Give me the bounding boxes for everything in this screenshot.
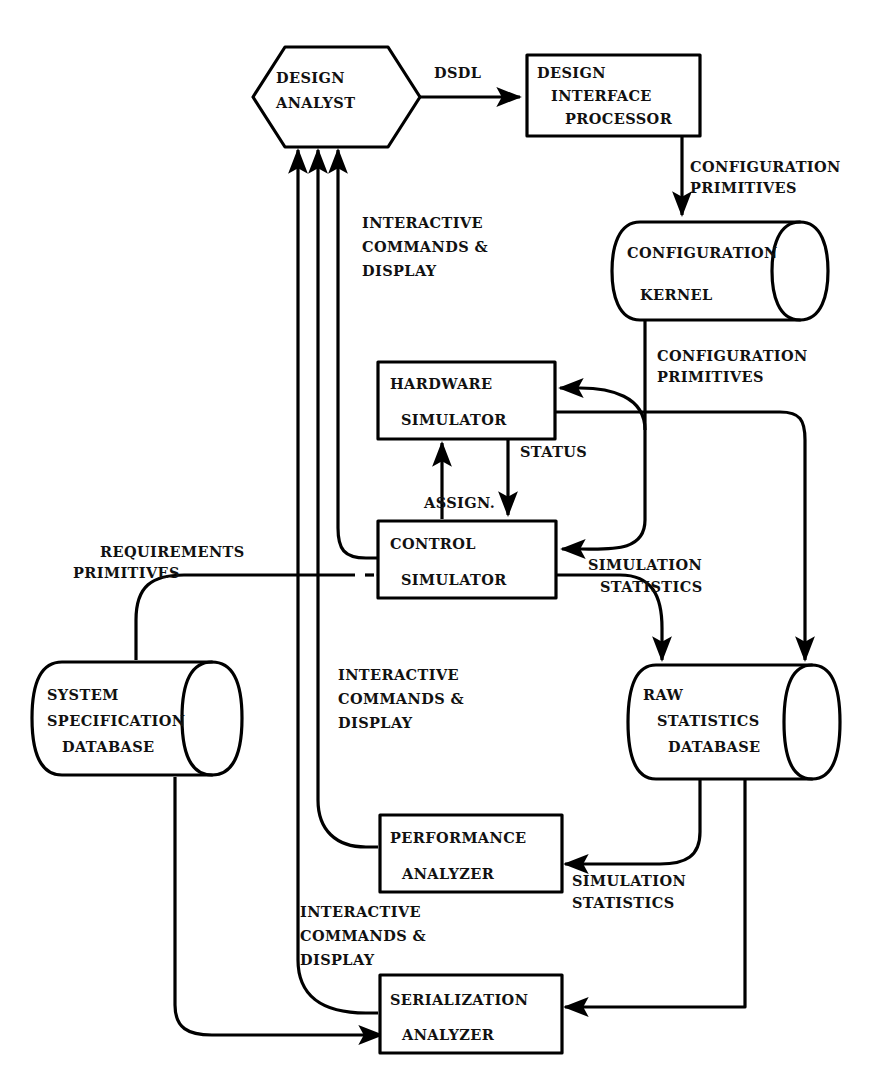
edge-label-interactive-top: INTERACTIVE COMMANDS & DISPLAY: [362, 214, 488, 279]
edge-label-simulation-statistics-bottom: SIMULATION STATISTICS: [572, 872, 686, 911]
serialization-analyzer-label-line-2: ANALYZER: [401, 1026, 495, 1043]
flow-sysspec-to-control-simulator: [136, 575, 355, 660]
config-primitives-mid-line-2: PRIMITIVES: [657, 368, 764, 385]
node-raw-statistics-database[interactable]: RAW STATISTICS DATABASE: [628, 665, 840, 779]
interactive-mid-line-3: DISPLAY: [338, 714, 413, 731]
simulation-statistics-bottom-line-2: STATISTICS: [572, 894, 675, 911]
performance-analyzer-label-line-2: ANALYZER: [401, 865, 495, 882]
design-analyst-label-line-2: ANALYST: [275, 94, 355, 111]
flow-config-kernel-to-control-simulator: [562, 520, 645, 549]
interactive-bottom-line-2: COMMANDS &: [300, 927, 426, 944]
flow-config-kernel-to-hardware-simulator: [560, 388, 645, 430]
node-design-interface-processor[interactable]: DESIGN INTERFACE PROCESSOR: [527, 55, 700, 136]
interactive-bottom-line-3: DISPLAY: [300, 951, 375, 968]
configuration-kernel-cylinder: [612, 222, 828, 320]
node-hardware-simulator[interactable]: HARDWARE SIMULATOR: [378, 362, 555, 439]
edge-label-interactive-bottom: INTERACTIVE COMMANDS & DISPLAY: [300, 903, 426, 968]
edge-label-assign: ASSIGN.: [423, 494, 495, 511]
flow-hardware-to-raw-statistics: [555, 412, 805, 660]
design-interface-processor-label-line-1: DESIGN: [537, 64, 606, 81]
interactive-bottom-line-1: INTERACTIVE: [300, 903, 421, 920]
raw-statistics-database-label-line-1: RAW: [643, 686, 683, 703]
dataflow-diagram-canvas: DESIGN ANALYST DESIGN INTERFACE PROCESSO…: [0, 0, 884, 1072]
edge-label-interactive-mid: INTERACTIVE COMMANDS & DISPLAY: [338, 666, 464, 731]
diagram-svg-surface: DESIGN ANALYST DESIGN INTERFACE PROCESSO…: [0, 0, 884, 1072]
requirements-primitives-line-1: REQUIREMENTS: [100, 543, 245, 560]
raw-statistics-database-label-line-2: STATISTICS: [657, 712, 760, 729]
simulation-statistics-mid-line-1: SIMULATION: [588, 556, 702, 573]
dsdl-label: DSDL: [434, 64, 481, 81]
control-simulator-label-line-1: CONTROL: [390, 535, 476, 552]
hardware-simulator-label-line-1: HARDWARE: [390, 375, 492, 392]
flow-control-simulator-to-design-analyst: [338, 150, 378, 558]
requirements-primitives-line-2: PRIMITIVES: [73, 564, 180, 581]
simulation-statistics-bottom-line-1: SIMULATION: [572, 872, 686, 889]
system-specification-database-label-line-3: DATABASE: [62, 738, 155, 755]
interactive-top-line-2: COMMANDS &: [362, 238, 488, 255]
config-primitives-mid-line-1: CONFIGURATION: [657, 347, 808, 364]
config-primitives-top-line-1: CONFIGURATION: [690, 158, 841, 175]
edge-label-dsdl: DSDL: [434, 64, 481, 81]
node-configuration-kernel[interactable]: CONFIGURATION KERNEL: [612, 222, 828, 320]
node-control-simulator[interactable]: CONTROL SIMULATOR: [378, 521, 556, 598]
interactive-top-line-1: INTERACTIVE: [362, 214, 483, 231]
interactive-mid-line-1: INTERACTIVE: [338, 666, 459, 683]
node-performance-analyzer[interactable]: PERFORMANCE ANALYZER: [380, 815, 562, 892]
node-system-specification-database[interactable]: SYSTEM SPECIFICATION DATABASE: [32, 662, 242, 775]
flow-raw-statistics-to-performance-analyzer: [565, 779, 700, 864]
design-interface-processor-label-line-3: PROCESSOR: [565, 110, 673, 127]
performance-analyzer-label-line-1: PERFORMANCE: [390, 829, 527, 846]
interactive-top-line-3: DISPLAY: [362, 262, 437, 279]
system-specification-database-label-line-2: SPECIFICATION: [47, 712, 185, 729]
flow-raw-statistics-to-serialization-analyzer: [565, 779, 745, 1007]
hardware-simulator-label-line-2: SIMULATOR: [401, 411, 507, 428]
configuration-kernel-label-line-2: KERNEL: [640, 286, 713, 303]
edge-label-configuration-primitives-top: CONFIGURATION PRIMITIVES: [690, 158, 841, 196]
edge-label-status: STATUS: [520, 443, 587, 460]
design-interface-processor-label-line-2: INTERFACE: [551, 87, 652, 104]
node-serialization-analyzer[interactable]: SERIALIZATION ANALYZER: [380, 975, 562, 1053]
system-specification-database-label-line-1: SYSTEM: [47, 686, 119, 703]
assign-label: ASSIGN.: [423, 494, 495, 511]
config-primitives-top-line-2: PRIMITIVES: [690, 179, 797, 196]
control-simulator-label-line-2: SIMULATOR: [401, 571, 507, 588]
configuration-kernel-label-line-1: CONFIGURATION: [627, 244, 778, 261]
edge-label-configuration-primitives-mid: CONFIGURATION PRIMITIVES: [657, 347, 808, 385]
interactive-mid-line-2: COMMANDS &: [338, 690, 464, 707]
node-design-analyst[interactable]: DESIGN ANALYST: [253, 47, 420, 147]
serialization-analyzer-label-line-1: SERIALIZATION: [390, 991, 528, 1008]
raw-statistics-database-label-line-3: DATABASE: [668, 738, 761, 755]
design-analyst-label-line-1: DESIGN: [276, 69, 345, 86]
status-label: STATUS: [520, 443, 587, 460]
simulation-statistics-mid-line-2: STATISTICS: [600, 578, 703, 595]
